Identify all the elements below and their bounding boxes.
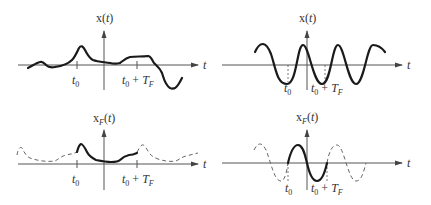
panel-top-right: x(t) t t0 t0 + TF — [222, 11, 411, 97]
y-axis-label: x(t) — [96, 11, 113, 25]
tick-label-t0-plus-tf: t0 + TF — [122, 172, 154, 188]
signal-curve — [28, 46, 182, 89]
periodic-extension-left — [17, 147, 77, 161]
signal-segment — [77, 144, 137, 162]
x-axis-label: t — [407, 58, 411, 72]
x-axis-label: t — [407, 156, 411, 170]
tick-label-t0-plus-tf: t0 + TF — [311, 81, 343, 97]
tick-label-t0: t0 — [72, 172, 79, 188]
tick-label-t0-plus-tf: t0 + TF — [122, 73, 154, 89]
panel-bottom-right: xF (t) t t0 t0 + TF — [222, 110, 411, 197]
x-axis-label: t — [203, 58, 207, 72]
x-axis-label: t — [203, 157, 207, 171]
diagram-canvas: x(t) t t0 t0 + TF x(t) t t0 t0 + TF xF) … — [0, 0, 431, 205]
panel-bottom-left: xF) (t) t t0 t0 + TF — [17, 111, 207, 190]
tick-label-t0: t0 — [285, 181, 292, 197]
periodic-extension-right — [137, 145, 198, 162]
y-axis-label: x(t) — [299, 11, 316, 25]
y-axis-label: xF — [296, 110, 307, 126]
y-axis-label-arg: (t) — [307, 110, 318, 124]
panel-top-left: x(t) t t0 t0 + TF — [18, 11, 207, 90]
sinusoid-curve — [255, 44, 385, 84]
tick-label-t0: t0 — [72, 73, 79, 89]
y-axis-label-arg: (t) — [104, 111, 115, 125]
tick-label-t0-plus-tf: t0 + TF — [311, 181, 343, 197]
